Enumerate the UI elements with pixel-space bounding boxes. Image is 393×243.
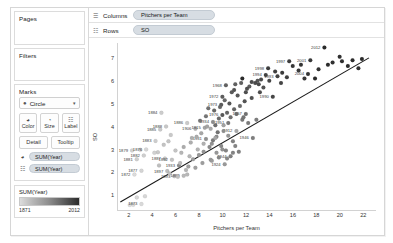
label-encoding-row[interactable]: ☷ SUM(Year) — [19, 164, 80, 173]
label-button[interactable]: ☷ Label — [62, 113, 80, 133]
scatter-point[interactable] — [346, 64, 350, 68]
scatter-point[interactable] — [291, 64, 295, 68]
scatter-point[interactable] — [182, 145, 186, 149]
scatter-point[interactable] — [185, 173, 189, 177]
scatter-point[interactable] — [231, 139, 235, 143]
scatter-point[interactable] — [166, 139, 170, 143]
scatter-point[interactable] — [199, 131, 203, 135]
scatter-point[interactable] — [275, 74, 279, 78]
scatter-point[interactable] — [232, 107, 236, 111]
scatter-point[interactable] — [198, 119, 202, 123]
scatter-point[interactable] — [216, 130, 220, 134]
scatter-point[interactable] — [326, 63, 330, 67]
scatter-point[interactable] — [220, 113, 224, 117]
scatter-point[interactable] — [251, 136, 255, 140]
scatter-point[interactable] — [195, 135, 199, 139]
scatter-point[interactable] — [257, 82, 261, 86]
scatter-point[interactable] — [204, 137, 208, 141]
rows-field-pill[interactable]: SO — [133, 25, 215, 35]
scatter-point[interactable] — [231, 151, 235, 155]
detail-button[interactable]: Detail — [19, 136, 48, 149]
scatter-point[interactable] — [202, 150, 206, 154]
scatter-point[interactable] — [340, 59, 344, 63]
scatter-point[interactable] — [241, 115, 245, 119]
scatter-point[interactable] — [226, 134, 230, 138]
scatter-point[interactable] — [197, 153, 201, 157]
scatter-point[interactable] — [259, 78, 263, 82]
scatter-point[interactable] — [218, 105, 222, 109]
scatter-point[interactable] — [169, 133, 173, 137]
scatter-point[interactable] — [306, 72, 310, 76]
scatter-point[interactable] — [238, 104, 242, 108]
scatter-point[interactable] — [233, 82, 237, 86]
scatter-point[interactable] — [229, 115, 233, 119]
scatter-point[interactable] — [308, 58, 312, 62]
scatter-point[interactable] — [142, 154, 146, 158]
scatter-point[interactable] — [162, 143, 166, 147]
scatter-point[interactable] — [224, 83, 228, 87]
scatter-point[interactable] — [317, 67, 321, 71]
scatter-point[interactable] — [215, 151, 219, 155]
scatter-point[interactable] — [143, 194, 147, 198]
columns-shelf[interactable]: ☰ Columns Pitchers per Team — [89, 8, 384, 23]
scatter-point[interactable] — [267, 79, 271, 83]
scatter-point[interactable] — [139, 169, 143, 173]
scatter-point[interactable] — [220, 147, 224, 151]
scatter-point[interactable] — [280, 71, 284, 75]
scatter-point[interactable] — [250, 96, 254, 100]
scatter-point[interactable] — [132, 173, 136, 177]
mark-type-dropdown[interactable]: ● Circle ▾ — [19, 97, 80, 109]
scatter-point[interactable] — [356, 66, 360, 70]
legend-gradient-ramp[interactable] — [19, 197, 80, 206]
scatter-point[interactable] — [202, 142, 206, 146]
scatter-point[interactable] — [222, 123, 226, 127]
scatter-point[interactable] — [245, 87, 249, 91]
scatter-point[interactable] — [157, 163, 161, 167]
scatter-point[interactable] — [135, 195, 139, 199]
scatter-point[interactable] — [302, 76, 306, 80]
scatter-point[interactable] — [271, 95, 275, 99]
label-encoding-pill[interactable]: SUM(Year) — [29, 164, 80, 173]
scatter-point[interactable] — [168, 171, 172, 175]
scatter-point[interactable] — [250, 80, 254, 84]
color-encoding-row[interactable]: ◕ SUM(Year) — [19, 152, 80, 161]
scatter-point[interactable] — [189, 141, 193, 145]
scatter-point[interactable] — [285, 75, 289, 79]
scatter-point[interactable] — [227, 102, 231, 106]
scatter-point[interactable] — [331, 60, 335, 64]
scatter-point[interactable] — [338, 55, 342, 59]
scatter-point[interactable] — [225, 157, 229, 161]
scatter-point[interactable] — [322, 46, 326, 50]
scatter-point[interactable] — [188, 154, 192, 158]
scatter-point[interactable] — [184, 168, 188, 172]
scatter-point[interactable] — [154, 139, 158, 143]
scatter-point[interactable] — [243, 99, 247, 103]
scatter-point[interactable] — [193, 166, 197, 170]
scatter-point[interactable] — [258, 90, 262, 94]
scatter-point[interactable] — [266, 66, 270, 70]
scatter-point[interactable] — [254, 118, 258, 122]
scatter-point[interactable] — [229, 154, 233, 158]
scatter-plot-svg[interactable]: 1873187218771881187918761882188318841885… — [118, 43, 376, 210]
tooltip-button[interactable]: Tooltip — [51, 136, 80, 149]
scatter-point[interactable] — [186, 165, 190, 169]
scatter-point[interactable] — [190, 136, 194, 140]
scatter-point[interactable] — [297, 68, 301, 72]
scatter-point[interactable] — [273, 70, 277, 74]
scatter-point[interactable] — [176, 175, 180, 179]
scatter-point[interactable] — [196, 147, 200, 151]
scatter-point[interactable] — [152, 151, 156, 155]
scatter-point[interactable] — [204, 114, 208, 118]
scatter-point[interactable] — [223, 98, 227, 102]
scatter-point[interactable] — [220, 95, 224, 99]
scatter-point[interactable] — [159, 111, 163, 115]
scatter-point[interactable] — [207, 145, 211, 149]
scatter-point[interactable] — [232, 88, 236, 92]
scatter-point[interactable] — [217, 155, 221, 159]
scatter-point[interactable] — [237, 150, 241, 154]
scatter-point[interactable] — [225, 111, 229, 115]
filters-card[interactable]: Filters — [14, 48, 85, 81]
scatter-point[interactable] — [222, 129, 226, 133]
scatter-point[interactable] — [246, 121, 250, 125]
scatter-point[interactable] — [156, 150, 160, 154]
